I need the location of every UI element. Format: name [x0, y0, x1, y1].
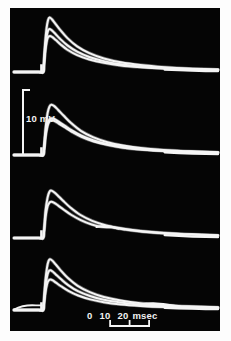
time-tick-20: 20 [117, 311, 128, 321]
time-scale-bar [110, 321, 149, 326]
time-scale-label: 01020msec [87, 311, 158, 321]
time-tick-0: 0 [87, 311, 92, 321]
oscilloscope-plot-frame: 10 mV 01020msec [10, 8, 220, 331]
time-unit-label: msec [132, 311, 157, 321]
trace-canvas [10, 8, 220, 331]
figure-root: 10 mV 01020msec [0, 0, 231, 341]
time-tick-10: 10 [99, 311, 110, 321]
voltage-scale-label: 10 mV [26, 114, 55, 124]
